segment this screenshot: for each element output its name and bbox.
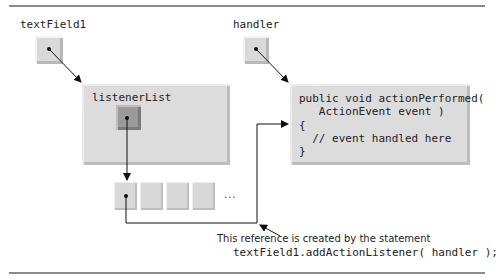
- caption-line-2: textField1.addActionListener( handler );: [233, 246, 498, 259]
- caption-line-1: This reference is created by the stateme…: [217, 233, 431, 244]
